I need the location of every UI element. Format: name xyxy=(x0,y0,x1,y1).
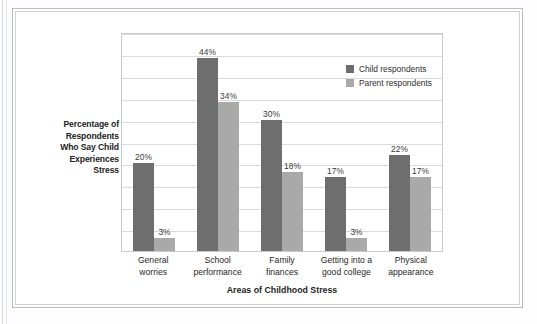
plot-area: 20%3%44%34%30%18%17%3%22%17% Child respo… xyxy=(121,33,443,252)
bar-value-label: 34% xyxy=(220,91,237,101)
legend-label-parent: Parent respondents xyxy=(359,78,432,88)
x-axis-category-label: Generalworries xyxy=(121,255,185,278)
y-axis-title-line-4: Experiences xyxy=(27,154,119,166)
y-axis-title: Percentage of Respondents Who Say Child … xyxy=(27,119,119,177)
bar-parent-wrap: 18% xyxy=(282,34,303,251)
bar-parent[interactable] xyxy=(154,238,175,251)
figure-page: Percentage of Respondents Who Say Child … xyxy=(0,0,537,324)
x-axis-category-label: Getting into agood college xyxy=(314,255,378,278)
bar-group: 20%3% xyxy=(122,34,186,251)
page-edge-line-inner xyxy=(6,0,7,324)
bar-parent-wrap: 3% xyxy=(154,34,175,251)
bar-value-label: 18% xyxy=(284,161,301,171)
x-axis-category-label: Familyfinances xyxy=(250,255,314,278)
bar-child[interactable] xyxy=(261,120,282,251)
bar-value-label: 3% xyxy=(350,227,362,237)
x-axis-category-label-line: performance xyxy=(185,267,249,279)
x-axis-category-label: Schoolperformance xyxy=(185,255,249,278)
x-axis-category-label-line: worries xyxy=(121,267,185,279)
bar-child-wrap: 17% xyxy=(325,34,346,251)
y-axis-title-line-5: Stress xyxy=(27,165,119,177)
bar-parent[interactable] xyxy=(410,177,431,251)
bar-value-label: 17% xyxy=(327,166,344,176)
bar-child-wrap: 44% xyxy=(197,34,218,251)
bar-child-wrap: 30% xyxy=(261,34,282,251)
bar-parent[interactable] xyxy=(346,238,367,251)
bar-value-label: 30% xyxy=(263,109,280,119)
bar-value-label: 3% xyxy=(158,227,170,237)
legend-swatch-child-icon xyxy=(346,65,354,73)
x-axis-category-label-line: General xyxy=(121,255,185,267)
x-axis-category-labels: GeneralworriesSchoolperformanceFamilyfin… xyxy=(121,255,443,278)
bar-value-label: 22% xyxy=(391,144,408,154)
bar-group: 30%18% xyxy=(250,34,314,251)
bar-child[interactable] xyxy=(133,163,154,251)
x-axis-category-label-line: Getting into a xyxy=(314,255,378,267)
page-edge-line-outer xyxy=(2,0,3,324)
x-axis-category-label-line: School xyxy=(185,255,249,267)
bar-parent[interactable] xyxy=(218,102,239,251)
bar-child[interactable] xyxy=(389,155,410,251)
x-axis-title: Areas of Childhood Stress xyxy=(121,285,443,295)
y-axis-title-line-2: Respondents xyxy=(27,131,119,143)
y-axis-title-line-1: Percentage of xyxy=(27,119,119,131)
bar-parent-wrap: 34% xyxy=(218,34,239,251)
legend-label-child: Child respondents xyxy=(359,64,427,74)
x-axis-category-label-line: finances xyxy=(250,267,314,279)
legend-swatch-parent-icon xyxy=(346,79,354,87)
legend-item-parent: Parent respondents xyxy=(346,78,432,88)
legend-item-child: Child respondents xyxy=(346,64,432,74)
bar-child[interactable] xyxy=(197,58,218,251)
bar-child-wrap: 20% xyxy=(133,34,154,251)
chart-legend: Child respondents Parent respondents xyxy=(346,64,432,88)
x-axis-category-label-line: appearance xyxy=(379,267,443,279)
bar-value-label: 44% xyxy=(199,47,216,57)
bar-chart: Percentage of Respondents Who Say Child … xyxy=(15,11,520,305)
x-axis-category-label-line: Family xyxy=(250,255,314,267)
bar-child[interactable] xyxy=(325,177,346,251)
y-axis-title-line-3: Who Say Child xyxy=(27,142,119,154)
bar-value-label: 17% xyxy=(412,166,429,176)
x-axis-category-label-line: Physical xyxy=(379,255,443,267)
x-axis-category-label: Physicalappearance xyxy=(379,255,443,278)
bar-parent[interactable] xyxy=(282,172,303,251)
x-axis-category-label-line: good college xyxy=(314,267,378,279)
bar-group: 44%34% xyxy=(186,34,250,251)
bar-value-label: 20% xyxy=(135,152,152,162)
